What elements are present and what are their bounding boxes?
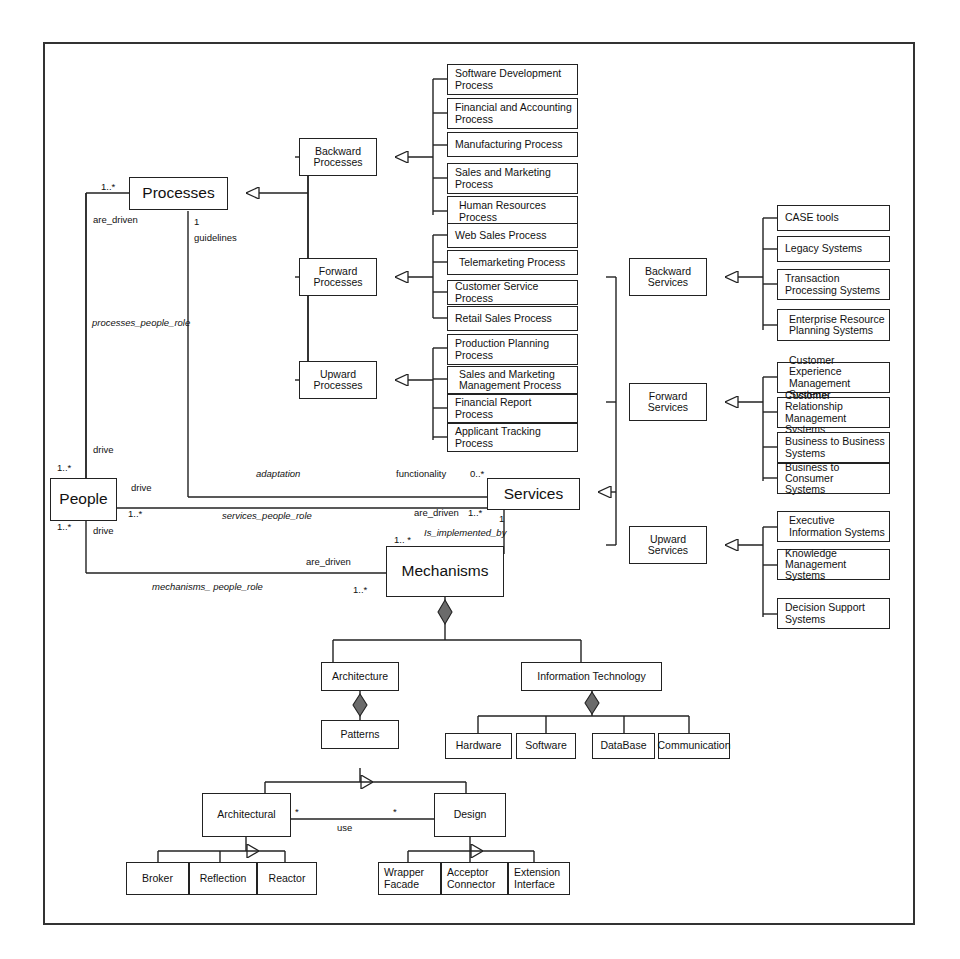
class-architectural[interactable]: Architectural: [202, 793, 291, 837]
class-forward-services[interactable]: Forward Services: [629, 383, 707, 421]
leaf-line1: CASE tools: [785, 212, 839, 223]
label-is-implemented-by: Is_implemented_by: [424, 527, 506, 538]
class-upward-services[interactable]: Upward Services: [629, 526, 707, 564]
leaf-forward-process[interactable]: Telemarketing Process: [447, 250, 578, 275]
leaf-line1: Customer Relationship: [785, 390, 885, 413]
class-services-label: Services: [504, 486, 563, 503]
leaf-upward-process[interactable]: Production Planning Process: [447, 334, 578, 365]
leaf-backward-process[interactable]: Financial and Accounting Process: [447, 98, 578, 129]
leaf-line2: Facade: [384, 879, 419, 890]
leaf-line2: Connector: [447, 879, 495, 890]
leaf-upward-process[interactable]: Sales and Marketing Management Process: [447, 366, 578, 394]
leaf-forward-service[interactable]: Business to Business Systems: [777, 432, 890, 463]
forward-services-line2: Services: [648, 402, 688, 413]
label-mechanisms-multiplicity-bottom: 1..*: [353, 584, 367, 595]
leaf-line1: Acceptor: [447, 867, 488, 878]
class-broker[interactable]: Broker: [126, 862, 189, 895]
leaf-line2: Process: [455, 409, 493, 420]
architectural-label: Architectural: [217, 809, 275, 820]
class-architecture[interactable]: Architecture: [321, 662, 399, 691]
class-information-technology[interactable]: Information Technology: [521, 662, 662, 691]
class-database[interactable]: DataBase: [592, 733, 655, 759]
leaf-line2: Systems: [785, 484, 825, 495]
class-patterns[interactable]: Patterns: [321, 720, 399, 749]
leaf-forward-process[interactable]: Web Sales Process: [447, 223, 578, 248]
leaf-upward-process[interactable]: Financial Report Process: [447, 394, 578, 423]
class-communication[interactable]: Communication: [658, 733, 730, 759]
class-services[interactable]: Services: [487, 478, 580, 510]
label-people-multiplicity-bottom: 1..*: [57, 521, 71, 532]
class-backward-services[interactable]: Backward Services: [629, 258, 707, 296]
class-design[interactable]: Design: [434, 793, 506, 837]
leaf-backward-service[interactable]: Transaction Processing Systems: [777, 269, 890, 300]
leaf-line2: Process: [455, 179, 493, 190]
leaf-forward-process[interactable]: Retail Sales Process: [447, 306, 578, 331]
leaf-line1: Extension: [514, 867, 560, 878]
class-wrapper-facade[interactable]: Wrapper Facade: [378, 862, 441, 895]
reflection-label: Reflection: [200, 873, 247, 884]
class-reflection[interactable]: Reflection: [189, 862, 257, 895]
leaf-forward-process[interactable]: Customer Service Process: [447, 280, 578, 305]
label-services-multiplicity-one: 1: [499, 513, 504, 524]
label-drive-mid: drive: [131, 482, 152, 493]
leaf-backward-service[interactable]: Legacy Systems: [777, 236, 890, 262]
leaf-line1: Human Resources: [459, 200, 546, 211]
class-software[interactable]: Software: [516, 733, 576, 759]
leaf-line1: Transaction: [785, 273, 839, 284]
label-are-driven-services-multiplicity: 1..*: [468, 507, 482, 518]
class-processes[interactable]: Processes: [129, 177, 228, 210]
class-acceptor-connector[interactable]: Acceptor Connector: [441, 862, 508, 895]
leaf-line2: Processing Systems: [785, 285, 880, 296]
leaf-line2: Planning Systems: [789, 325, 873, 336]
design-label: Design: [454, 809, 487, 820]
class-backward-processes[interactable]: Backward Processes: [299, 138, 377, 176]
label-use-star-right: *: [393, 806, 397, 817]
broker-label: Broker: [142, 873, 173, 884]
label-functionality: functionality: [396, 468, 446, 479]
leaf-line2: Systems: [785, 448, 825, 459]
leaf-line2: Management Process: [459, 380, 561, 391]
label-mechanisms-multiplicity-top: 1.. *: [394, 534, 411, 545]
label-functionality-multiplicity: 0..*: [470, 468, 484, 479]
class-extension-interface[interactable]: Extension Interface: [508, 862, 570, 895]
leaf-backward-process[interactable]: Manufacturing Process: [447, 132, 578, 157]
leaf-backward-process[interactable]: Software Development Process: [447, 64, 578, 95]
leaf-upward-service[interactable]: Knowledge Management Systems: [777, 549, 890, 580]
leaf-line1: Decision Support: [785, 602, 865, 613]
leaf-upward-service[interactable]: Decision Support Systems: [777, 598, 890, 629]
label-guidelines-multiplicity: 1: [194, 216, 199, 227]
leaf-forward-service[interactable]: Customer Relationship Management Systems: [777, 397, 890, 428]
label-are-driven-processes: are_driven: [93, 214, 138, 225]
class-upward-processes[interactable]: Upward Processes: [299, 361, 377, 399]
class-mechanisms[interactable]: Mechanisms: [386, 546, 504, 597]
leaf-backward-service[interactable]: Enterprise Resource Planning Systems: [777, 309, 890, 341]
leaf-line2: Process: [455, 80, 493, 91]
leaf-line1: Executive: [789, 515, 835, 526]
label-services-people-role: services_people_role: [222, 510, 312, 521]
leaf-forward-service[interactable]: Business to Consumer Systems: [777, 463, 890, 494]
class-hardware[interactable]: Hardware: [445, 733, 512, 759]
class-processes-label: Processes: [142, 185, 214, 202]
label-guidelines: guidelines: [194, 232, 237, 243]
label-people-multiplicity-top: 1..*: [57, 462, 71, 473]
leaf-upward-service[interactable]: Executive Information Systems: [777, 511, 890, 542]
label-are-driven-services: are_driven: [414, 507, 459, 518]
leaf-line1: Manufacturing Process: [455, 139, 562, 150]
forward-processes-line2: Processes: [313, 277, 362, 288]
leaf-line1: Wrapper: [384, 867, 424, 878]
information-technology-label: Information Technology: [537, 671, 645, 682]
hardware-label: Hardware: [456, 740, 502, 751]
class-reactor[interactable]: Reactor: [257, 862, 317, 895]
leaf-backward-service[interactable]: CASE tools: [777, 205, 890, 231]
class-people[interactable]: People: [50, 478, 117, 521]
leaf-line2: Process: [459, 212, 497, 223]
leaf-line2: Process: [455, 350, 493, 361]
leaf-line2: Process: [455, 114, 493, 125]
communication-label: Communication: [658, 740, 731, 751]
leaf-backward-process[interactable]: Sales and Marketing Process: [447, 163, 578, 194]
reactor-label: Reactor: [269, 873, 306, 884]
leaf-upward-process[interactable]: Applicant Tracking Process: [447, 423, 578, 452]
leaf-line1: Retail Sales Process: [455, 313, 552, 324]
class-forward-processes[interactable]: Forward Processes: [299, 258, 377, 296]
label-drive-bottom: drive: [93, 525, 114, 536]
